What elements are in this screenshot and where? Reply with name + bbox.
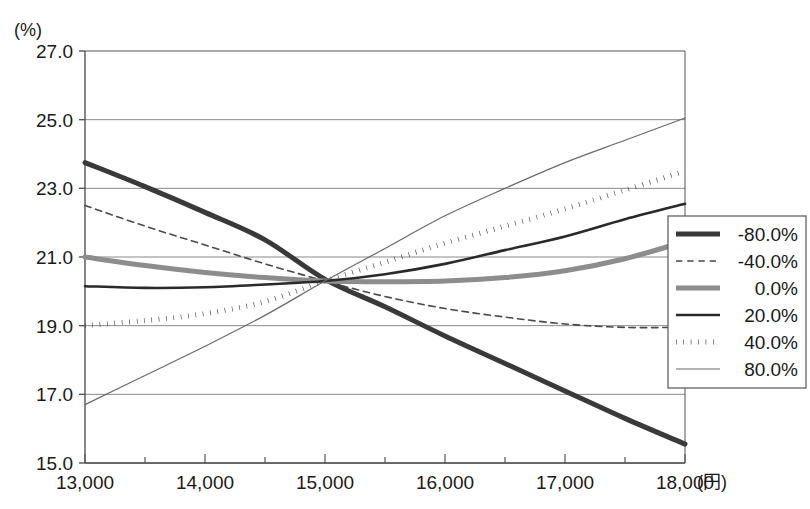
legend-label-1: -40.0%: [738, 251, 798, 272]
series-line-0: [85, 163, 685, 445]
legend-label-3: 20.0%: [744, 305, 798, 326]
x-tick-label: 15,000: [296, 472, 354, 493]
y-tick-label: 27.0: [36, 41, 73, 62]
series-line-5: [85, 118, 685, 405]
x-axis-unit-label: (円): [697, 472, 727, 492]
series-line-3: [85, 204, 685, 288]
chart-container: 15.017.019.021.023.025.027.0(%)13,00014,…: [0, 0, 810, 509]
y-tick-label: 19.0: [36, 316, 73, 337]
y-tick-label: 21.0: [36, 247, 73, 268]
x-tick-label: 16,000: [416, 472, 474, 493]
legend-label-0: -80.0%: [738, 224, 798, 245]
x-tick-label: 17,000: [536, 472, 594, 493]
chart-legend: -80.0%-40.0%0.0%20.0%40.0%80.0%: [668, 216, 806, 388]
legend-label-5: 80.0%: [744, 359, 798, 380]
y-tick-label: 23.0: [36, 178, 73, 199]
legend-label-4: 40.0%: [744, 332, 798, 353]
y-axis-unit-label: (%): [14, 20, 42, 40]
series-line-2: [85, 242, 685, 282]
line-chart: 15.017.019.021.023.025.027.0(%)13,00014,…: [0, 0, 810, 509]
y-tick-label: 25.0: [36, 110, 73, 131]
legend-label-2: 0.0%: [755, 278, 798, 299]
x-tick-label: 14,000: [176, 472, 234, 493]
y-tick-label: 17.0: [36, 384, 73, 405]
x-tick-label: 13,000: [56, 472, 114, 493]
y-tick-label: 15.0: [36, 453, 73, 474]
